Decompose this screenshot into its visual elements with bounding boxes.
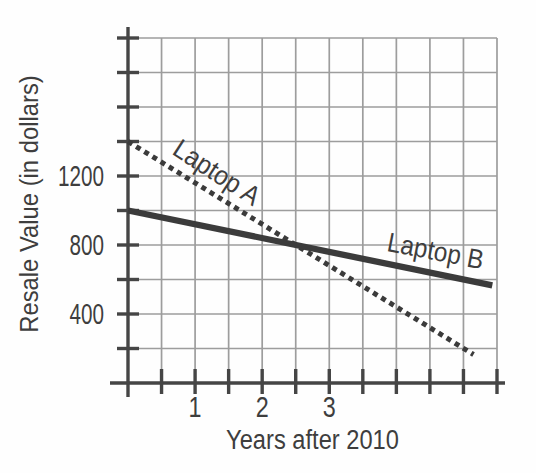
x-tick-label: 2 [256,391,269,423]
y-tick-label: 400 [70,298,105,330]
x-axis-title: Years after 2010 [226,425,399,455]
y-axis-title: Resale Value (in dollars) [14,75,44,333]
chart-canvas: 4008001200123Years after 2010Resale Valu… [0,0,536,473]
x-tick-label: 1 [189,391,202,423]
y-tick-label: 1200 [58,160,104,192]
x-tick-label: 3 [323,391,336,423]
y-tick-label: 800 [70,229,105,261]
resale-value-chart: 4008001200123Years after 2010Resale Valu… [0,0,536,473]
